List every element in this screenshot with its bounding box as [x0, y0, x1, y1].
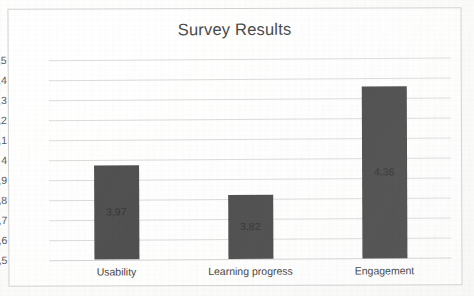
scanned-chart-image: Survey Results 4,54,44,34,24,143,93,83,7… [0, 0, 474, 296]
y-axis-tick-label: 4 [0, 154, 7, 166]
bar-learning-progress[interactable]: 3,82 [228, 195, 273, 259]
bar-value-label: 4,36 [362, 165, 407, 177]
y-axis-tick-label: 4,1 [0, 134, 7, 146]
y-axis-tick-label: 3,6 [0, 234, 7, 246]
bar-value-label: 3,82 [228, 220, 273, 232]
y-axis-tick-label: 4,5 [0, 54, 7, 66]
bar-value-label: 3,97 [94, 205, 139, 217]
y-axis-tick-label: 3,9 [0, 174, 7, 186]
plot-area: 4,54,44,34,24,143,93,83,73,63,53,973,824… [49, 58, 452, 260]
gridline [49, 58, 451, 62]
y-axis-tick-label: 4,3 [0, 94, 7, 106]
y-axis-tick-label: 3,7 [0, 214, 7, 226]
x-axis-category-label: Engagement [355, 264, 415, 276]
chart-title: Survey Results [9, 19, 461, 40]
bar-engagement[interactable]: 4,36 [361, 86, 407, 258]
y-axis-tick-label: 3,5 [0, 254, 7, 266]
y-axis-tick-label: 4,2 [0, 114, 7, 126]
x-axis-category-label: Usability [97, 265, 137, 277]
chart-frame: Survey Results 4,54,44,34,24,143,93,83,7… [7, 7, 462, 287]
bar-usability[interactable]: 3,97 [94, 165, 139, 259]
gridline [49, 78, 451, 82]
x-axis-category-label: Learning progress [208, 265, 293, 277]
y-axis-tick-label: 4,4 [0, 74, 7, 86]
y-axis-tick-label: 3,8 [0, 194, 7, 206]
